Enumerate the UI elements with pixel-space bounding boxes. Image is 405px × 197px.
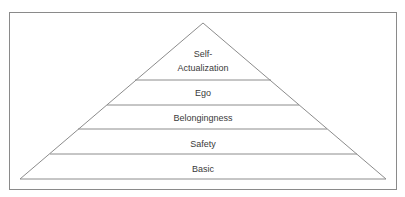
level-label-belongingness: Belongingness — [173, 113, 233, 123]
level-label-ego: Ego — [195, 88, 211, 98]
level-label-self-actualization-line1: Self- — [194, 49, 213, 59]
pyramid-diagram: Self- Actualization Ego Belongingness Sa… — [0, 0, 405, 197]
diagram-frame — [10, 13, 397, 190]
pyramid-outline — [20, 23, 386, 179]
level-label-basic: Basic — [192, 164, 215, 174]
level-label-safety: Safety — [190, 139, 216, 149]
level-label-self-actualization-line2: Actualization — [177, 63, 228, 73]
